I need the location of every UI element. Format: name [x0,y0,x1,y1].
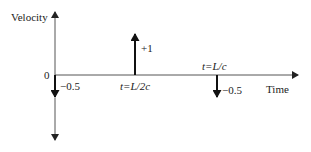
impulse-value-full: −0.5 [222,84,242,96]
y-axis-label: Velocity [11,11,48,23]
impulse-time-full: t=L/c [202,60,227,72]
impulse-value-origin: −0.5 [60,80,80,92]
origin-label: 0 [44,69,50,81]
impulse-value-half: +1 [141,42,153,54]
x-axis-label: Time [266,83,289,95]
velocity-time-diagram: Velocity Time 0 −0.5 +1 t=L/2c t=L/c −0.… [0,0,311,152]
impulse-time-half: t=L/2c [120,80,150,92]
